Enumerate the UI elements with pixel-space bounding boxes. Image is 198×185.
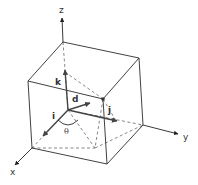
y-axis-label: y xyxy=(183,132,189,142)
direction-vector-d xyxy=(68,103,90,110)
y-axis xyxy=(143,125,178,134)
angle-theta-label: θ xyxy=(64,127,69,136)
z-axis-label: z xyxy=(59,5,64,15)
cube-edge-back-right xyxy=(139,58,143,125)
unit-vector-j-label: j xyxy=(107,105,111,115)
angle-theta-arc xyxy=(58,120,78,125)
x-axis-label: x xyxy=(10,167,16,177)
point-p xyxy=(101,97,105,101)
unit-vector-k-label: k xyxy=(55,77,62,87)
cube-edge-front-right xyxy=(103,99,107,164)
projection-to-y xyxy=(95,125,143,148)
cube-edge-bottom-front xyxy=(32,148,107,164)
x-axis xyxy=(15,148,32,165)
cube-top-face xyxy=(28,42,139,99)
projection-vertical xyxy=(95,99,103,148)
projection-k xyxy=(65,72,103,99)
unit-vector-i-label: i xyxy=(52,111,55,121)
cube-vector-diagram: z y x k j i d θ xyxy=(0,0,198,185)
cube-edge-front-left xyxy=(28,81,32,148)
direction-vector-d-label: d xyxy=(72,94,78,104)
z-axis xyxy=(62,18,63,42)
cube-edge-bottom-right xyxy=(107,125,143,164)
